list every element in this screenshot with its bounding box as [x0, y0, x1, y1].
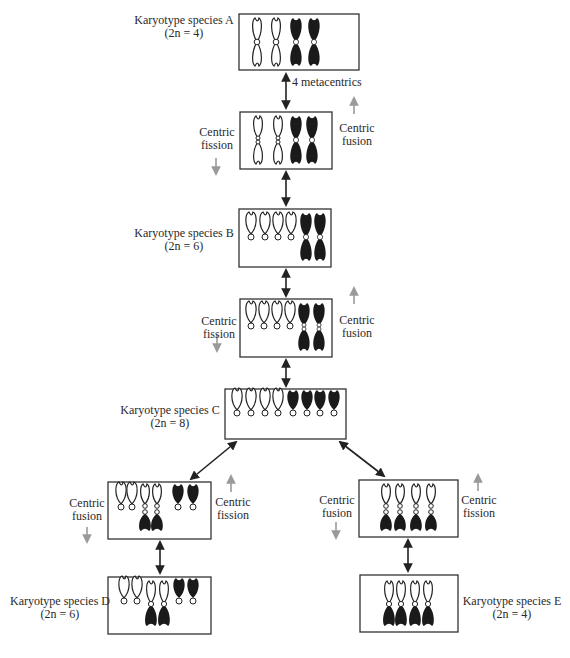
karyotype-box-species-a — [239, 14, 359, 70]
label-species-b: Karyotype species B (2n = 6) — [128, 227, 240, 253]
ab-left-line2: fission — [194, 139, 240, 152]
label-ab-right: Centric fusion — [334, 122, 380, 148]
label-ce-right: Centric fission — [456, 494, 502, 520]
label-cd-left: Centric fusion — [64, 497, 110, 523]
cd-left-line2: fusion — [64, 510, 110, 523]
label-species-d: Karyotype species D (2n = 6) — [10, 595, 110, 621]
karyotype-box-species-e — [360, 575, 458, 632]
species-e-count: (2n = 4) — [460, 608, 564, 621]
bc-right-line2: fusion — [334, 327, 380, 340]
metacentrics-text: 4 metacentrics — [292, 76, 382, 89]
ce-left-line2: fusion — [314, 507, 360, 520]
label-bc-left: Centric fission — [196, 315, 242, 341]
label-bc-right: Centric fusion — [334, 314, 380, 340]
karyotype-box-intermediate-ce — [359, 480, 458, 537]
karyotype-box-species-c — [225, 388, 346, 439]
species-d-count: (2n = 6) — [10, 608, 110, 621]
karyotype-box-intermediate-cd — [108, 482, 211, 539]
label-cd-right: Centric fission — [210, 496, 256, 522]
species-a-count: (2n = 4) — [128, 27, 240, 40]
label-ce-left: Centric fusion — [314, 494, 360, 520]
karyotype-box-intermediate-ab — [240, 112, 332, 169]
ce-right-line2: fission — [456, 507, 502, 520]
label-species-c: Karyotype species C (2n = 8) — [114, 404, 226, 430]
bc-left-line2: fission — [196, 328, 242, 341]
cd-right-line2: fission — [210, 509, 256, 522]
label-metacentrics: 4 metacentrics — [292, 76, 382, 89]
label-species-a: Karyotype species A (2n = 4) — [128, 14, 240, 40]
arrow-c-ce — [340, 442, 384, 476]
species-b-count: (2n = 6) — [128, 240, 240, 253]
ab-right-line2: fusion — [334, 135, 380, 148]
label-ab-left: Centric fission — [194, 126, 240, 152]
species-c-count: (2n = 8) — [114, 417, 226, 430]
label-species-e: Karyotype species E (2n = 4) — [460, 595, 564, 621]
arrow-c-cd — [191, 442, 236, 479]
karyotype-box-species-d — [108, 576, 211, 634]
karyotype-box-species-b — [239, 209, 331, 267]
karyotype-box-intermediate-bc — [240, 299, 332, 357]
karyotype-evolution-diagram — [0, 0, 570, 658]
